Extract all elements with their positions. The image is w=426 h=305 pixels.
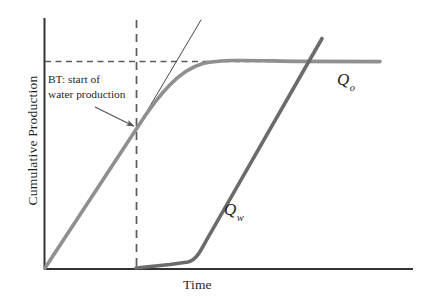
oil-curve-label-subscript: o <box>350 82 355 93</box>
water-curve-label: Qw <box>224 200 243 221</box>
axis-lines <box>44 18 413 270</box>
y-axis-title: Cumulative Production <box>22 15 44 266</box>
breakthrough-arrow <box>95 107 134 126</box>
oil-curve-label: Qo <box>337 70 355 91</box>
breakthrough-annotation-text: BT: start of water production <box>48 72 152 101</box>
water-curve-label-subscript: w <box>237 212 244 223</box>
plot-area <box>0 0 426 305</box>
chart-figure: Cumulative Production Time BT: start of … <box>0 0 426 305</box>
water-curve-label-base: Q <box>224 200 236 219</box>
x-axis-title: Time <box>183 277 303 293</box>
water-production-curve <box>136 39 322 269</box>
oil-curve-label-base: Q <box>337 70 349 89</box>
